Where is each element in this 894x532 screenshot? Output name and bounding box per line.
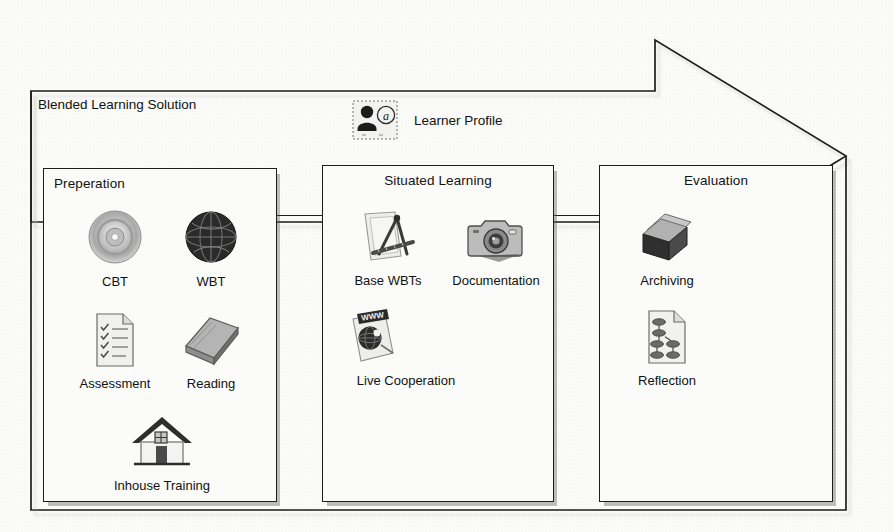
book-icon	[156, 309, 266, 371]
flowchart-document-icon	[612, 306, 722, 368]
learner-profile-node[interactable]: a Learner Profile	[352, 100, 503, 140]
stage-title-situated-learning: Situated Learning	[323, 173, 553, 188]
item-reflection[interactable]: Reflection	[612, 306, 722, 388]
item-live-cooperation[interactable]: WWW Live Cooperation	[331, 306, 481, 388]
archive-box-icon	[612, 206, 722, 268]
item-inhouse-training[interactable]: Inhouse Training	[92, 411, 232, 493]
globe-icon	[156, 207, 266, 269]
item-label: Documentation	[441, 273, 551, 288]
item-label: Reading	[156, 376, 266, 391]
item-archiving[interactable]: Archiving	[612, 206, 722, 288]
item-label: CBT	[60, 274, 170, 289]
item-label: Live Cooperation	[331, 373, 481, 388]
item-assessment[interactable]: Assessment	[60, 309, 170, 391]
www-globe-document-icon: WWW	[331, 306, 493, 368]
item-label: Reflection	[612, 373, 722, 388]
connector-situated-to-evaluation	[550, 215, 601, 216]
item-label: WBT	[156, 274, 266, 289]
item-wbt[interactable]: WBT	[156, 207, 266, 289]
learner-profile-label: Learner Profile	[414, 113, 503, 128]
user-at-symbol-icon: a	[352, 100, 398, 140]
item-base-wbts[interactable]: Base WBTs	[333, 206, 443, 288]
item-label: Assessment	[60, 376, 170, 391]
checklist-document-icon	[60, 309, 170, 371]
document-ruler-compass-icon	[333, 206, 443, 268]
item-documentation[interactable]: Documentation	[441, 206, 551, 288]
item-label: Archiving	[612, 273, 722, 288]
item-cbt[interactable]: CBT	[60, 207, 170, 289]
diagram-title: Blended Learning Solution	[38, 97, 196, 112]
svg-text:a: a	[383, 109, 389, 123]
connector-preperation-to-situated	[273, 215, 324, 216]
item-label: Base WBTs	[333, 273, 443, 288]
stage-panel-situated-learning[interactable]: Situated Learning Ba	[322, 165, 554, 502]
stage-title-preperation: Preperation	[54, 176, 125, 191]
item-reading[interactable]: Reading	[156, 309, 266, 391]
compact-disc-icon	[60, 207, 170, 269]
house-icon	[92, 411, 232, 473]
item-label: Inhouse Training	[92, 478, 232, 493]
stage-panel-preperation[interactable]: Preperation	[43, 168, 277, 502]
stage-panel-evaluation[interactable]: Evaluation Archiving	[599, 165, 833, 502]
blended-learning-diagram: Blended Learning Solution a Learner Prof…	[0, 0, 894, 532]
stage-title-evaluation: Evaluation	[600, 173, 832, 188]
camera-icon	[441, 206, 551, 268]
